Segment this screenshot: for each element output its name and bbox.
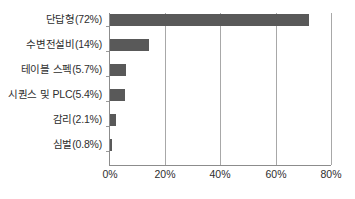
y-axis-tick-2 bbox=[106, 76, 109, 77]
y-axis-tick-1 bbox=[106, 51, 109, 52]
gridline-80 bbox=[331, 13, 332, 165]
category-label-4: 감리(2.1%) bbox=[53, 113, 102, 126]
gridline-20 bbox=[165, 13, 166, 165]
category-label-3: 시퀀스 및 PLC(5.4%) bbox=[8, 88, 102, 101]
bar-4 bbox=[110, 114, 116, 126]
y-axis-tick-3 bbox=[106, 101, 109, 102]
y-axis-tick-4 bbox=[106, 126, 109, 127]
bar-0 bbox=[110, 14, 309, 26]
category-label-2: 테이블 스펙(5.7%) bbox=[21, 63, 102, 76]
x-tick-label-0: 0% bbox=[102, 168, 117, 181]
bar-chart: 단답형(72%) 수변전설비(14%) 테이블 스펙(5.7%) 시퀀스 및 P… bbox=[0, 0, 355, 199]
gridline-40 bbox=[220, 13, 221, 165]
x-tick-label-4: 80% bbox=[320, 168, 341, 181]
y-axis-tick-0 bbox=[106, 26, 109, 27]
category-label-1: 수변전설비(14%) bbox=[26, 38, 102, 51]
x-axis-labels: 0% 20% 40% 60% 80% bbox=[110, 168, 331, 182]
x-axis-line bbox=[109, 165, 331, 166]
category-axis-labels: 단답형(72%) 수변전설비(14%) 테이블 스펙(5.7%) 시퀀스 및 P… bbox=[0, 13, 106, 165]
x-tick-label-2: 40% bbox=[209, 168, 230, 181]
bar-1 bbox=[110, 39, 149, 51]
bar-3 bbox=[110, 89, 125, 101]
category-label-0: 단답형(72%) bbox=[46, 13, 102, 26]
x-tick-label-1: 20% bbox=[154, 168, 175, 181]
gridline-60 bbox=[276, 13, 277, 165]
bar-5 bbox=[110, 139, 112, 151]
bar-2 bbox=[110, 64, 126, 76]
x-tick-label-3: 60% bbox=[265, 168, 286, 181]
plot-area bbox=[110, 13, 331, 165]
category-label-5: 심벌(0.8%) bbox=[53, 138, 102, 151]
y-axis-tick-5 bbox=[106, 151, 109, 152]
